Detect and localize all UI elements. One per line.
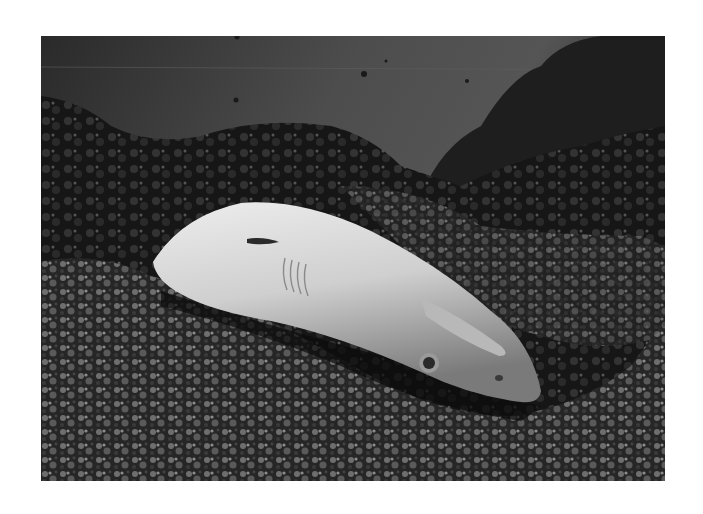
shark-nostril — [495, 375, 503, 381]
photo-canvas — [41, 36, 665, 481]
shark-photograph — [41, 36, 665, 481]
